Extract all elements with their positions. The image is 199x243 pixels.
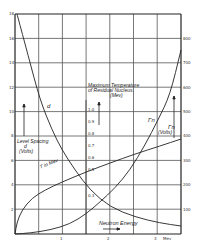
right-tick-800: 800 — [183, 37, 191, 41]
mid-tick-0.6: 0.6 — [88, 156, 94, 160]
chart-canvas — [0, 0, 199, 243]
mid-tick-0.8: 0.8 — [88, 132, 94, 136]
left-tick-18: 18 — [9, 12, 14, 16]
right-tick-600: 600 — [183, 86, 191, 90]
mid-tick-0.7: 0.7 — [88, 144, 94, 148]
level-spacing-label: Level Spacing d (Volts) — [17, 139, 48, 154]
level-spacing-arrow-head — [23, 104, 25, 107]
gamma-n-axis-label: Γn (Volts) — [158, 124, 175, 135]
max-temp-arrow-head — [98, 102, 100, 105]
left-tick-2: 2 — [11, 208, 14, 212]
left-tick-16: 16 — [9, 37, 14, 41]
x-tick-3: 3 — [154, 237, 157, 241]
left-tick-14: 14 — [9, 61, 14, 65]
left-tick-8: 8 — [11, 134, 14, 138]
right-tick-700: 700 — [183, 61, 191, 65]
neutron-energy-label: Neutron Energy — [99, 221, 138, 227]
right-tick-100: 100 — [183, 208, 191, 212]
left-tick-6: 6 — [11, 159, 14, 163]
left-tick-12: 12 — [9, 86, 14, 90]
level-spacing-label-line3: (Volts) — [17, 149, 48, 154]
right-tick-200: 200 — [183, 183, 191, 187]
mid-tick-0.9: 0.9 — [88, 120, 94, 124]
d-curve-label: d — [47, 103, 50, 109]
right-tick-300: 300 — [183, 159, 191, 163]
right-tick-400: 400 — [183, 134, 191, 138]
level-spacing-label-line1: Level Spacing — [17, 139, 48, 144]
gamma-n-axis-label-unit: (Volts) — [158, 130, 175, 135]
left-tick-10: 10 — [9, 110, 14, 114]
max-temperature-label: Maximum Temperature of Residual Nucleus.… — [88, 83, 139, 98]
mid-tick-0.5: 0.5 — [88, 168, 94, 172]
x-tick-2: 2 — [107, 237, 110, 241]
mid-tick-0.3: 0.3 — [88, 194, 94, 198]
left-tick-4: 4 — [11, 183, 14, 187]
mid-tick-1.0: 1.0 — [88, 108, 94, 112]
x-unit-label: Mev — [163, 237, 171, 241]
gamma-n-curve-label: Γn — [148, 117, 155, 123]
data-curves — [15, 14, 181, 234]
x-tick-1: 1 — [60, 237, 63, 241]
max-temp-label-line3: (Mev) — [88, 93, 139, 98]
right-tick-500: 500 — [183, 110, 191, 114]
gamma-n-arrow-head — [173, 96, 175, 99]
